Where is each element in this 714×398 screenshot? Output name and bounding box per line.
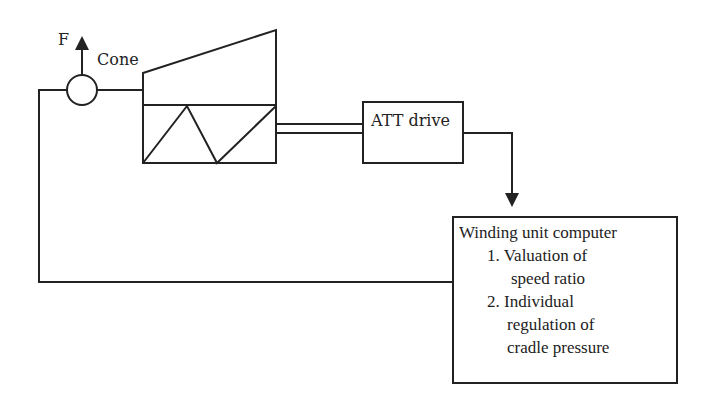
att-to-computer-line: [463, 133, 512, 196]
traverse-zigzag: [143, 106, 276, 163]
down-arrow-icon: [505, 193, 519, 207]
drum-rect: [143, 105, 276, 163]
item2-line3: cradle pressure: [507, 337, 609, 359]
att-drive-label: ATT drive: [371, 113, 450, 129]
force-sensor-circle: [67, 75, 97, 105]
item2-line1: 2. Individual: [487, 291, 574, 313]
item1-line2: speed ratio: [511, 268, 585, 290]
computer-title: Winding unit computer: [459, 222, 617, 244]
cone-shape: [143, 30, 276, 105]
force-label: F: [58, 32, 69, 48]
diagram-canvas: F Cone ATT drive Winding unit computer 1…: [0, 0, 714, 398]
force-arrow-icon: [75, 36, 89, 50]
item1-line1: 1. Valuation of: [487, 245, 587, 267]
item2-line2: regulation of: [507, 314, 594, 336]
cone-label: Cone: [97, 52, 139, 68]
